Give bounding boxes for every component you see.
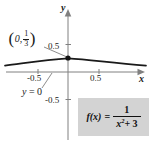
y-intercept-label: (0,13)	[8, 30, 36, 48]
fraction-numerator: 1	[23, 30, 29, 38]
formula-equals: =	[104, 111, 110, 122]
x-axis-label: x	[139, 74, 144, 84]
formula-function-name: f(x)	[86, 111, 101, 122]
formula-box: f(x) = 1 x2+ 3	[78, 98, 149, 136]
graph-figure: (0,13) 0.5 -0.5 -0.5 0.5 y x y = 0 f(x) …	[0, 0, 151, 143]
denominator-rest: + 3	[124, 118, 137, 129]
y-tick-label-0-5: 0.5	[48, 42, 59, 51]
x-tick-label-0-5: 0.5	[90, 74, 101, 83]
y-tick-label-neg-0-5: -0.5	[45, 96, 59, 105]
y-axis	[65, 9, 72, 140]
asymptote-equals: =	[29, 86, 35, 97]
formula-fraction: 1 x2+ 3	[113, 105, 140, 130]
asymptote-label: y = 0	[22, 87, 42, 97]
function-curve	[5, 58, 146, 65]
function-formula: f(x) = 1 x2+ 3	[86, 105, 140, 130]
close-paren: )	[30, 32, 36, 46]
point-comma: ,	[20, 34, 23, 44]
asymptote-leader-line	[42, 73, 52, 88]
one-third-fraction: 13	[23, 30, 29, 48]
y-intercept-point	[65, 55, 70, 60]
formula-denominator: x2+ 3	[113, 117, 140, 129]
open-paren: (	[9, 32, 15, 46]
fraction-denominator: 3	[23, 40, 29, 48]
x-tick-label-neg-0-5: -0.5	[27, 74, 41, 83]
y-axis-label: y	[61, 3, 65, 13]
asymptote-variable: y	[22, 86, 26, 97]
asymptote-value: 0	[37, 86, 42, 97]
formula-numerator: 1	[121, 105, 132, 116]
